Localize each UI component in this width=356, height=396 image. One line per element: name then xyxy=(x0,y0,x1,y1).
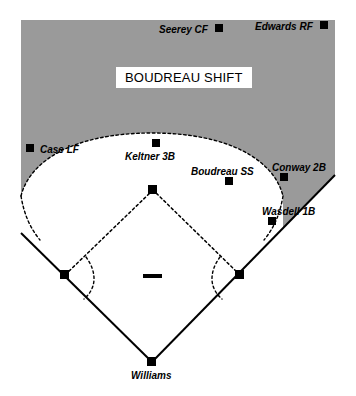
label-wasdell-1b: Wasdell 1B xyxy=(262,206,315,217)
first-base-marker xyxy=(235,270,244,279)
pitchers-rubber xyxy=(143,274,162,278)
label-edwards-rf: Edwards RF xyxy=(255,21,313,32)
third-base-marker xyxy=(60,270,69,279)
marker-keltner-3b xyxy=(152,139,160,147)
marker-conway-2b xyxy=(280,173,288,181)
marker-boudreau-ss xyxy=(225,177,233,185)
marker-edwards-rf xyxy=(320,21,328,29)
label-williams-batter: Williams xyxy=(131,370,171,381)
home-plate-marker xyxy=(147,357,156,366)
shift-banner-label: BOUDREAU SHIFT xyxy=(116,67,252,88)
label-keltner-3b: Keltner 3B xyxy=(125,151,175,162)
second-base-marker xyxy=(148,185,157,194)
pitchers-mound xyxy=(143,274,162,278)
label-conway-2b: Conway 2B xyxy=(272,162,326,173)
marker-seerey-cf xyxy=(215,24,223,32)
baseball-field-diagram: BOUDREAU SHIFT Seerey CF Edwards RF Case… xyxy=(0,0,356,396)
label-case-lf: Case LF xyxy=(40,144,79,155)
marker-wasdell-1b xyxy=(268,217,276,225)
field-graphics xyxy=(0,0,356,396)
label-seerey-cf: Seerey CF xyxy=(159,24,208,35)
label-boudreau-ss: Boudreau SS xyxy=(191,166,254,177)
marker-case-lf xyxy=(26,144,34,152)
